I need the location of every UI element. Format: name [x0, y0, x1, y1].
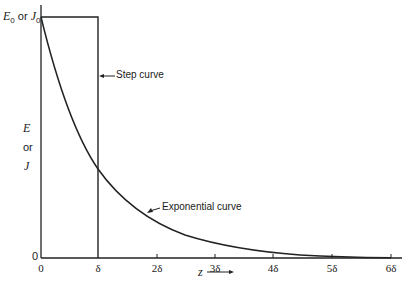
- x-tick-6: 6δ: [386, 263, 397, 274]
- x-tick-3: 3δ: [210, 263, 221, 274]
- ylabel-e: E: [23, 122, 30, 134]
- j-subscript: 0: [36, 16, 40, 25]
- step-curve-label: Step curve: [116, 70, 164, 80]
- xlabel: z: [198, 266, 203, 278]
- ylabel-j: J: [24, 160, 29, 172]
- x-tick-1: δ: [95, 263, 100, 274]
- exponential-curve: [41, 17, 391, 258]
- y-top-label: E0 or J0: [3, 10, 40, 25]
- exp-curve-arrow: [147, 208, 160, 213]
- exp-curve-label: Exponential curve: [162, 202, 242, 212]
- chart-canvas: [0, 0, 405, 282]
- x-tick-2: 2δ: [152, 263, 163, 274]
- or-text: or: [15, 10, 31, 22]
- x-tick-0: 0: [38, 263, 44, 274]
- ylabel-or: or: [23, 142, 33, 153]
- x-tick-5: 5δ: [327, 263, 338, 274]
- y-zero-label: 0: [32, 251, 38, 262]
- x-tick-4: 4δ: [268, 263, 279, 274]
- step-curve: [41, 17, 98, 258]
- step-curve-arrow: [99, 74, 115, 78]
